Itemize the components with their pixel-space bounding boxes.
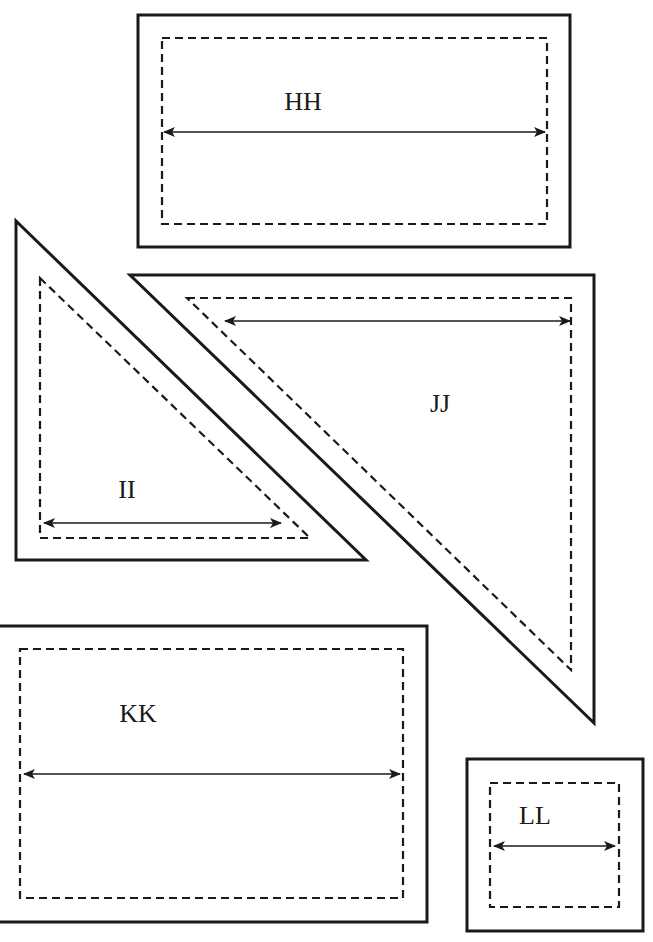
ll-label: LL — [519, 801, 551, 830]
ii-label: II — [118, 475, 135, 504]
ll-cut-line — [467, 759, 643, 931]
pattern-sheet: HH II JJ KK LL — [0, 0, 653, 942]
kk-label: KK — [119, 699, 157, 728]
piece-ll: LL — [467, 759, 643, 931]
jj-label: JJ — [430, 389, 450, 418]
piece-hh: HH — [138, 15, 570, 247]
jj-cut-line — [130, 275, 594, 723]
jj-seam-line — [187, 298, 571, 670]
ii-cut-line — [16, 221, 366, 560]
hh-cut-line — [138, 15, 570, 247]
piece-kk: KK — [0, 626, 427, 922]
piece-jj: JJ — [130, 275, 594, 723]
ll-seam-line — [490, 783, 619, 907]
hh-seam-line — [162, 38, 547, 224]
hh-label: HH — [284, 87, 322, 116]
piece-ii: II — [16, 221, 366, 560]
